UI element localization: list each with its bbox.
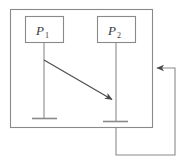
diagram-svg: P 1 P 2 — [0, 0, 185, 162]
process-p2-group[interactable]: P 2 — [98, 17, 136, 122]
message-arrow-p1-to-p2 — [44, 60, 112, 100]
p2-label: P — [107, 23, 116, 38]
diagram-canvas: P 1 P 2 — [0, 0, 185, 162]
p1-label: P — [35, 23, 44, 38]
p1-subscript: 1 — [45, 31, 49, 40]
feedback-loop-path — [116, 68, 175, 155]
p2-subscript: 2 — [117, 31, 121, 40]
